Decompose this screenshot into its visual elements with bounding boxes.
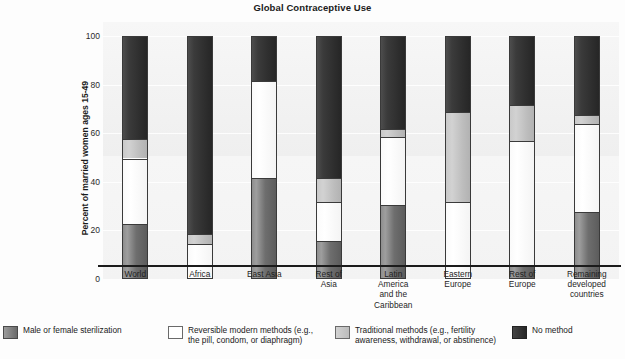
- x-axis-label-remaining: Remainingdevelopedcountries: [555, 269, 620, 300]
- plot-area: [103, 22, 619, 279]
- bar-segment-trad: [510, 105, 534, 141]
- legend-swatch-no-method: [512, 326, 527, 339]
- y-axis-tick-20: 20: [68, 225, 100, 235]
- bar-segment-none: [123, 37, 147, 139]
- bar-east-asia[interactable]: [251, 36, 277, 279]
- bar-remaining-developed-countries[interactable]: [574, 36, 600, 279]
- bar-segment-rev: [575, 124, 599, 211]
- y-axis-tick-60: 60: [68, 128, 100, 138]
- y-axis-tick-0: 0: [68, 274, 100, 284]
- bar-segment-ster: [381, 205, 405, 279]
- gridline-80: [103, 85, 619, 86]
- bar-segment-rev: [510, 141, 534, 265]
- legend-swatch-sterilization: [3, 326, 18, 339]
- y-axis-tick-100: 100: [68, 31, 100, 41]
- x-axis-label-world: World: [103, 269, 168, 279]
- y-axis-tick-40: 40: [68, 177, 100, 187]
- legend-item-no-method: No method: [512, 325, 622, 339]
- bar-rest-of-europe[interactable]: [509, 36, 535, 279]
- bar-segment-rev: [317, 202, 341, 241]
- legend-swatch-reversible-modern: [168, 326, 183, 339]
- bar-segment-none: [510, 37, 534, 105]
- gridline-40: [103, 182, 619, 183]
- legend-label-sterilization: Male or female sterilization: [23, 325, 122, 335]
- chart-title: Global Contraceptive Use: [0, 2, 625, 13]
- legend-swatch-traditional: [335, 326, 350, 339]
- segment-divider: [317, 202, 341, 203]
- bar-segment-rev: [446, 202, 470, 279]
- legend-label-reversible-modern: Reversible modern methods (e.g., the pil…: [188, 325, 323, 346]
- legend-label-traditional: Traditional methods (e.g., fertility awa…: [355, 325, 510, 346]
- plot-background-upper: [103, 22, 619, 156]
- segment-divider: [575, 124, 599, 125]
- legend-item-traditional: Traditional methods (e.g., fertility awa…: [335, 325, 510, 346]
- segment-divider: [123, 159, 147, 160]
- bar-segment-none: [446, 37, 470, 112]
- bar-segment-none: [317, 37, 341, 178]
- legend-item-sterilization: Male or female sterilization: [3, 325, 171, 339]
- bar-latin-america-and-the-caribbean[interactable]: [380, 36, 406, 279]
- bar-segment-none: [188, 37, 212, 234]
- segment-divider: [252, 178, 276, 179]
- segment-divider: [252, 81, 276, 82]
- bar-segment-trad: [188, 234, 212, 244]
- chart-plot-wrapper: Percent of married women ages 15-49 0204…: [0, 14, 625, 270]
- segment-divider: [317, 241, 341, 242]
- x-axis-label-east-asia: East Asia: [232, 269, 297, 279]
- segment-divider: [381, 129, 405, 130]
- segment-divider: [446, 112, 470, 113]
- gridline-100: [103, 36, 619, 37]
- plot-background-lower: [103, 156, 619, 279]
- bar-africa[interactable]: [187, 36, 213, 279]
- segment-divider: [575, 212, 599, 213]
- legend-label-no-method: No method: [532, 325, 573, 335]
- bar-segment-ster: [252, 178, 276, 279]
- segment-divider: [123, 139, 147, 140]
- segment-divider: [446, 202, 470, 203]
- bar-segment-trad: [381, 129, 405, 136]
- x-axis-label-rest-of: Rest ofEurope: [490, 269, 555, 289]
- legend-item-reversible-modern: Reversible modern methods (e.g., the pil…: [168, 325, 323, 346]
- y-axis-tick-80: 80: [68, 80, 100, 90]
- segment-divider: [381, 137, 405, 138]
- x-axis-label-rest-of: Rest ofAsia: [297, 269, 362, 289]
- y-axis-ticks: 020406080100: [62, 28, 100, 288]
- bar-segment-rev: [252, 81, 276, 178]
- bar-segment-none: [575, 37, 599, 115]
- bar-segment-trad: [123, 139, 147, 158]
- x-axis-line: [98, 265, 621, 267]
- segment-divider: [123, 224, 147, 225]
- bar-segment-rev: [381, 137, 405, 205]
- bar-segment-none: [381, 37, 405, 129]
- x-axis-label-eastern: EasternEurope: [426, 269, 491, 289]
- x-axis-label-africa: Africa: [168, 269, 233, 279]
- segment-divider: [317, 178, 341, 179]
- x-axis-label-latin: LatinAmericaand theCaribbean: [361, 269, 426, 310]
- segment-divider: [575, 115, 599, 116]
- segment-divider: [188, 234, 212, 235]
- bar-segment-trad: [317, 178, 341, 202]
- chart-legend: Male or female sterilization Reversible …: [0, 320, 625, 359]
- bar-eastern-europe[interactable]: [445, 36, 471, 279]
- bar-segment-trad: [446, 112, 470, 202]
- bar-rest-of-asia[interactable]: [316, 36, 342, 279]
- segment-divider: [510, 141, 534, 142]
- bar-segment-none: [252, 37, 276, 81]
- gridline-60: [103, 133, 619, 134]
- segment-divider: [381, 205, 405, 206]
- gridline-20: [103, 230, 619, 231]
- bar-segment-rev: [123, 159, 147, 225]
- segment-divider: [188, 244, 212, 245]
- bar-world[interactable]: [122, 36, 148, 279]
- segment-divider: [510, 105, 534, 106]
- bar-segment-trad: [575, 115, 599, 125]
